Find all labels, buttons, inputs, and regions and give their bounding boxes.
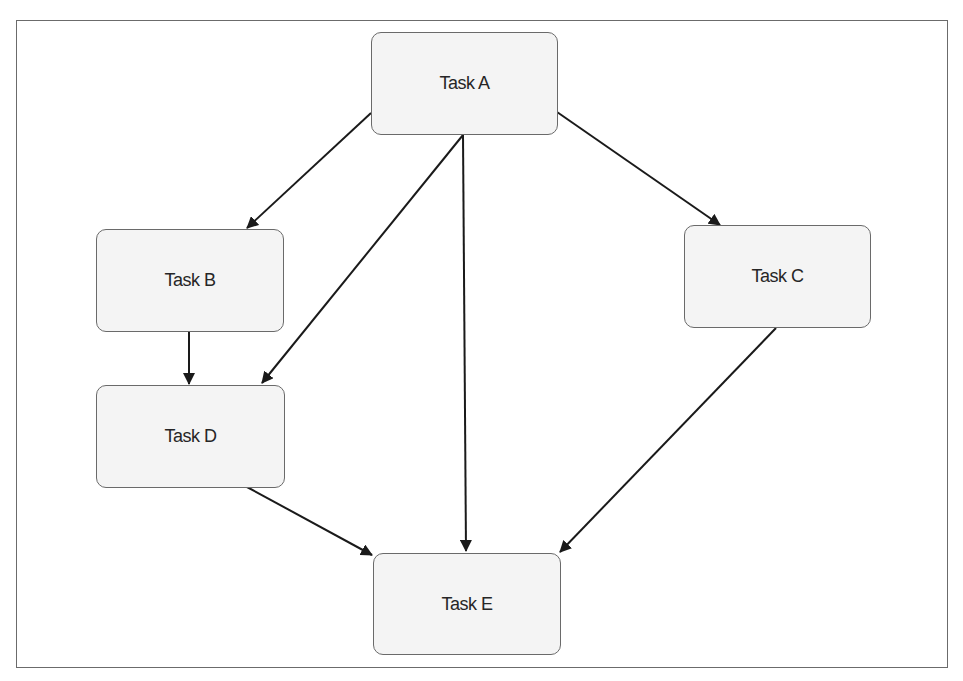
node-label: Task D [164, 426, 216, 447]
node-task-c: Task C [684, 225, 871, 328]
node-task-e: Task E [373, 553, 561, 655]
node-label: Task C [751, 266, 803, 287]
node-label: Task E [441, 594, 492, 615]
node-label: Task A [439, 73, 489, 94]
node-task-d: Task D [96, 385, 285, 488]
node-label: Task B [164, 270, 215, 291]
node-task-a: Task A [371, 32, 558, 135]
node-task-b: Task B [96, 229, 284, 332]
